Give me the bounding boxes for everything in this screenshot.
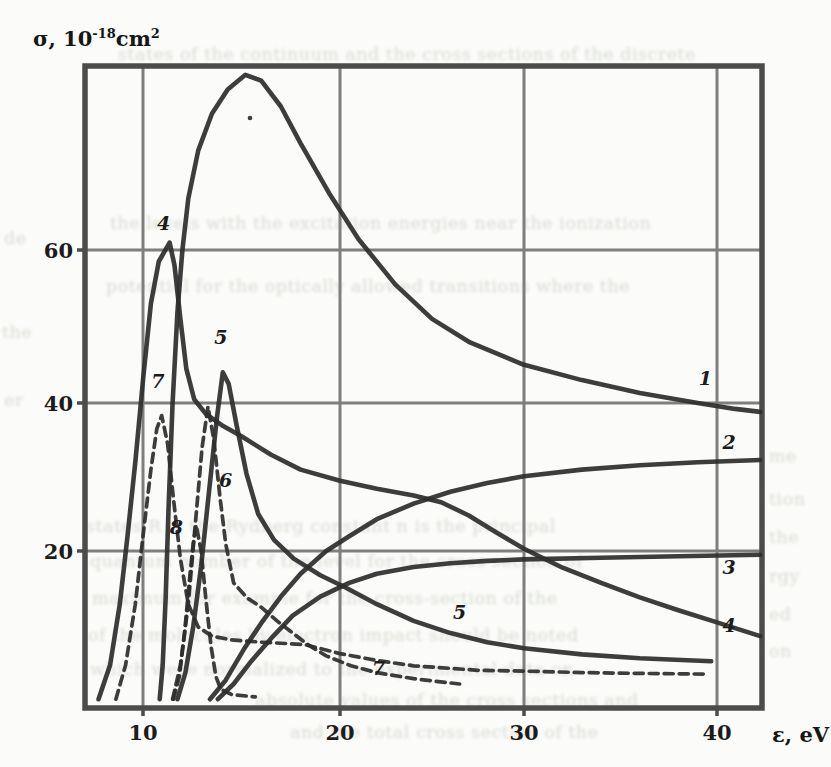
curve-label-7-2: 7 (151, 370, 164, 392)
curve-label-8-4: 8 (169, 516, 183, 538)
curve-label-2-6: 2 (721, 431, 735, 453)
curve-label-5-1: 5 (214, 326, 227, 348)
x-tick-label-20: 20 (325, 720, 354, 745)
curve-label-4-0: 4 (157, 212, 170, 234)
y-tick-label-40: 40 (44, 391, 73, 416)
x-tick-label-10: 10 (128, 720, 157, 745)
x-tick-label-30: 30 (509, 720, 538, 745)
y-tick-label-20: 20 (44, 539, 73, 564)
y-axis-unit: cm (116, 26, 151, 51)
curve-4 (99, 243, 761, 700)
curve-label-4-8: 4 (722, 614, 735, 636)
curve-6 (173, 407, 460, 700)
curve-label-6-3: 6 (219, 469, 232, 491)
y-axis-title: σ, 10-18cm2 (33, 26, 160, 51)
curves-layer (99, 75, 761, 699)
curve-label-3-7: 3 (722, 556, 735, 578)
y-axis-title-base: σ, 10 (33, 26, 92, 51)
scan-speck (248, 116, 253, 121)
curve-2 (210, 460, 760, 699)
x-tick-label-40: 40 (702, 720, 731, 745)
y-axis-unit-exponent: 2 (151, 26, 160, 41)
curve-label-5-9: 5 (453, 601, 466, 623)
x-axis-title: ε, eV (772, 722, 829, 747)
curve-label-7-10: 7 (372, 657, 385, 679)
y-tick-label-60: 60 (44, 238, 73, 263)
chart-canvas: 4576812345710203040204060 (0, 0, 831, 767)
scanned-figure-page: states of the continuum and the cross se… (0, 0, 831, 767)
curve-label-1-5: 1 (699, 367, 712, 389)
y-axis-exponent: -18 (92, 26, 116, 41)
curve-5 (178, 372, 712, 699)
